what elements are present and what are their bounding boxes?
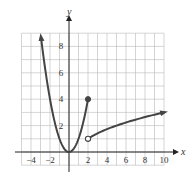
open-dot-marker [85, 136, 90, 141]
graph: x y −4−2246810 2468 [0, 0, 196, 176]
y-tick-label: 8 [59, 41, 64, 51]
y-tick-label: 4 [59, 94, 64, 104]
x-tick-label: −2 [45, 155, 55, 165]
y-tick-label: 6 [59, 68, 64, 78]
y-tick-label: 2 [59, 121, 64, 131]
x-tick-label: 4 [105, 155, 110, 165]
x-tick-label: 8 [143, 155, 148, 165]
x-tick-label: 2 [86, 155, 91, 165]
x-tick-label: 6 [124, 155, 129, 165]
y-axis-label: y [66, 6, 72, 17]
x-tick-label: 10 [160, 155, 170, 165]
x-axis-label: x [180, 146, 186, 157]
x-tick-label: −4 [26, 155, 36, 165]
closed-dot-marker [85, 97, 90, 102]
parabola-curve [41, 37, 88, 152]
